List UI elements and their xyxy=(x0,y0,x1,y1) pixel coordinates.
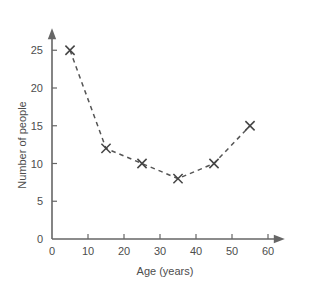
x-tick-label: 0 xyxy=(49,245,55,257)
y-tick-label: 25 xyxy=(31,44,43,56)
y-tick-label: 15 xyxy=(31,120,43,132)
x-tick-label: 50 xyxy=(226,245,238,257)
line-chart: 0102030405060 0510152025 Age (years) Num… xyxy=(0,0,318,290)
y-tick-label: 0 xyxy=(37,233,43,245)
x-tick-label: 30 xyxy=(154,245,166,257)
x-tick-label: 20 xyxy=(118,245,130,257)
y-tick-label: 10 xyxy=(31,158,43,170)
x-tick-label: 40 xyxy=(190,245,202,257)
x-tick-label: 60 xyxy=(262,245,274,257)
chart-container: 0102030405060 0510152025 Age (years) Num… xyxy=(0,0,318,290)
x-tick-label: 10 xyxy=(82,245,94,257)
x-axis-title: Age (years) xyxy=(137,265,194,277)
y-axis-title: Number of people xyxy=(16,101,28,188)
y-tick-label: 20 xyxy=(31,82,43,94)
y-tick-label: 5 xyxy=(37,195,43,207)
